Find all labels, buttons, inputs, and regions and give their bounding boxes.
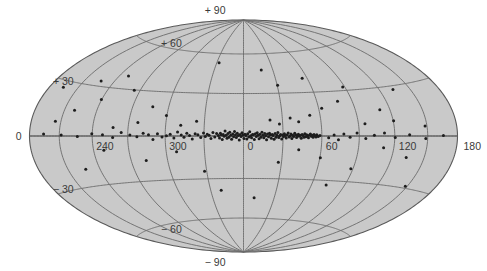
lat-label--90: − 90 [205, 256, 226, 268]
data-point [235, 136, 238, 139]
data-point [199, 136, 202, 139]
data-point [54, 120, 57, 123]
data-point [211, 131, 214, 134]
data-point [383, 132, 386, 135]
data-point [262, 136, 265, 139]
data-point [405, 156, 408, 159]
data-point [270, 137, 273, 140]
data-point [120, 131, 123, 134]
data-point [319, 156, 322, 159]
data-point [333, 134, 336, 137]
data-point [258, 137, 261, 140]
data-point [191, 137, 194, 140]
data-point [195, 120, 198, 123]
data-point [288, 136, 291, 139]
data-point [135, 135, 138, 138]
data-point [165, 134, 168, 137]
data-point [442, 134, 445, 137]
data-point [76, 135, 79, 138]
data-point [391, 88, 394, 91]
data-point [349, 167, 352, 170]
lat-label-30: + 30 [53, 75, 74, 87]
lat-label--30: − 30 [53, 183, 74, 195]
data-point [349, 136, 352, 139]
data-point [232, 135, 235, 138]
data-point [394, 136, 397, 139]
data-point [218, 61, 221, 64]
lon-label-60: 60 [326, 140, 338, 152]
data-point [188, 134, 191, 137]
data-point [289, 116, 292, 119]
sky-map-figure: + 90+ 60+ 300− 30− 60− 90180120600300240 [0, 0, 487, 271]
data-point [203, 170, 206, 173]
data-point [280, 137, 283, 140]
data-point [373, 134, 376, 137]
data-point [100, 98, 103, 101]
data-point [147, 133, 150, 136]
data-point [185, 132, 188, 135]
data-point [301, 77, 304, 80]
data-point [277, 161, 280, 164]
data-point [265, 138, 268, 141]
data-point [273, 138, 276, 141]
lon-label-0: 0 [248, 140, 254, 152]
data-point [404, 185, 407, 188]
data-point [220, 189, 223, 192]
lat-label-60: + 60 [161, 37, 182, 49]
lat-label--60: − 60 [161, 223, 182, 235]
lat-label-90: + 90 [205, 4, 226, 16]
data-point [133, 89, 136, 92]
data-point [224, 130, 227, 133]
data-point [127, 74, 130, 77]
data-point [276, 84, 279, 87]
data-point [156, 132, 159, 135]
data-point [204, 135, 207, 138]
data-point [206, 133, 209, 136]
data-point [172, 136, 175, 139]
data-point [392, 119, 395, 122]
data-point [90, 132, 93, 135]
lon-label-180: 180 [464, 140, 482, 152]
data-point [160, 135, 163, 138]
data-point [100, 79, 103, 82]
data-point [424, 124, 427, 127]
data-point [297, 120, 300, 123]
data-point [213, 136, 216, 139]
data-point [169, 133, 172, 136]
lon-label-240: 240 [96, 140, 114, 152]
data-point [165, 114, 168, 117]
data-point [277, 136, 280, 139]
data-point [215, 132, 218, 135]
data-point [243, 137, 246, 140]
data-point [342, 132, 345, 135]
data-point [424, 137, 427, 140]
data-point [364, 137, 367, 140]
data-point [84, 168, 87, 171]
data-point [226, 137, 229, 140]
data-point [196, 133, 199, 136]
data-point [327, 136, 330, 139]
data-point [378, 108, 381, 111]
data-point [136, 121, 139, 124]
lat-label-0: 0 [16, 130, 22, 142]
data-point [151, 105, 154, 108]
data-point [194, 132, 197, 135]
data-point [111, 136, 114, 139]
data-point [290, 137, 293, 140]
data-point [202, 131, 205, 134]
data-point [60, 134, 63, 137]
data-point [260, 69, 263, 72]
data-point [176, 131, 179, 134]
data-point [142, 132, 145, 135]
data-point [233, 130, 236, 133]
data-point [363, 122, 366, 125]
data-point [230, 138, 233, 141]
data-point [145, 159, 148, 162]
data-point [128, 134, 131, 137]
data-point [42, 133, 45, 136]
data-point [269, 119, 272, 122]
data-point [180, 133, 183, 136]
data-point [408, 133, 411, 136]
data-point [382, 146, 385, 149]
data-point [182, 136, 185, 139]
